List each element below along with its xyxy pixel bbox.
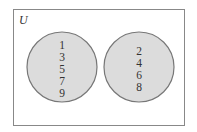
element: 1 [59,39,65,51]
left-set-elements: 1 3 5 7 9 [59,39,65,99]
element: 4 [136,57,142,69]
venn-diagram: U 1 3 5 7 9 2 4 6 8 [0,0,197,132]
element: 2 [136,45,142,57]
element: 7 [59,75,65,87]
right-set-elements: 2 4 6 8 [136,45,142,93]
element: 3 [59,51,65,63]
element: 8 [136,81,142,93]
element: 9 [59,87,65,99]
universe-label: U [19,13,29,27]
element: 6 [136,69,142,81]
element: 5 [59,63,65,75]
